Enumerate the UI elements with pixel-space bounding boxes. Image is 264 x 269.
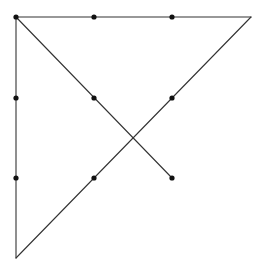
dot-d9 [169, 175, 174, 180]
dot-d3 [169, 14, 174, 19]
dot-d2 [91, 14, 96, 19]
dot-d8 [91, 175, 96, 180]
dot-d6 [169, 95, 174, 100]
dot-d7 [13, 175, 18, 180]
diagram-svg [0, 0, 264, 269]
lines-layer [16, 17, 251, 258]
nine-dot-puzzle-diagram [0, 0, 264, 269]
dot-d4 [13, 95, 18, 100]
dot-d5 [91, 95, 96, 100]
dot-d1 [13, 14, 18, 19]
